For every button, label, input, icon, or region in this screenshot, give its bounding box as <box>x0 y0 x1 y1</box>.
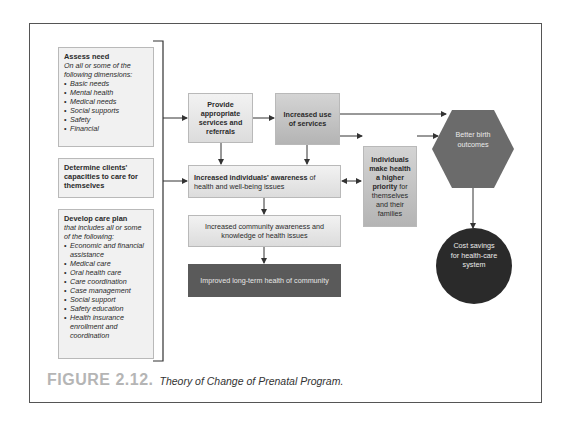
long-term-health-box: Improved long-term health of community <box>188 264 341 297</box>
develop-care-plan-subtitle: that includes all or some of the followi… <box>64 223 148 241</box>
better-birth-outcomes-label: Better birth outcomes <box>432 130 514 149</box>
list-item: Social support <box>64 295 148 304</box>
list-item: Oral health care <box>64 268 148 277</box>
list-item: Case management <box>64 286 148 295</box>
list-item: Health insurance enrollment and coordina… <box>64 313 148 340</box>
cost-savings-label: Cost savings for health-care system <box>440 241 508 270</box>
develop-care-plan-title: Develop care plan <box>64 214 148 223</box>
assess-need-title: Assess need <box>64 52 148 61</box>
list-item: Economic and financial assistance <box>64 241 148 259</box>
list-item: Medical needs <box>64 97 148 106</box>
figure-caption: FIGURE 2.12.Theory of Change of Prenatal… <box>47 371 343 389</box>
develop-care-plan-list: Economic and financial assistance Medica… <box>64 241 148 340</box>
individual-awareness-bold: Increased individuals' awareness <box>194 173 308 182</box>
list-item: Safety education <box>64 304 148 313</box>
list-item: Financial <box>64 124 148 133</box>
list-item: Care coordination <box>64 277 148 286</box>
determine-capacities-box: Determine clients' capacities to care fo… <box>58 158 154 198</box>
determine-capacities-title: Determine clients' capacities to care fo… <box>64 163 148 190</box>
list-item: Mental health <box>64 88 148 97</box>
long-term-health-label: Improved long-term health of community <box>200 276 329 285</box>
provide-services-box: Provide appropriate services and referra… <box>188 93 253 143</box>
assess-need-subtitle: On all or some of the following dimensio… <box>64 61 148 79</box>
figure-number: FIGURE 2.12. <box>47 371 153 388</box>
individual-awareness-box: Increased individuals' awareness of heal… <box>188 165 341 198</box>
develop-care-plan-box: Develop care plan that includes all or s… <box>58 209 154 359</box>
assess-need-box: Assess need On all or some of the follow… <box>58 47 154 147</box>
community-awareness-box: Increased community awareness and knowle… <box>188 215 341 247</box>
health-priority-box: Individuals make health a higher priorit… <box>363 146 417 227</box>
hexagon-shape <box>432 110 514 188</box>
figure-title: Theory of Change of Prenatal Program. <box>159 375 343 387</box>
provide-services-label: Provide appropriate services and referra… <box>195 100 246 136</box>
community-awareness-label: Increased community awareness and knowle… <box>195 222 334 240</box>
list-item: Medical care <box>64 259 148 268</box>
better-birth-outcomes-text: Better birth outcomes <box>451 130 495 149</box>
assess-need-list: Basic needs Mental health Medical needs … <box>64 79 148 133</box>
increased-use-label: Increased use of services <box>280 110 335 128</box>
increased-use-box: Increased use of services <box>275 93 340 145</box>
list-item: Social supports <box>64 106 148 115</box>
cost-savings-text: Cost savings for health-care system <box>450 241 498 270</box>
list-item: Basic needs <box>64 79 148 88</box>
list-item: Safety <box>64 115 148 124</box>
